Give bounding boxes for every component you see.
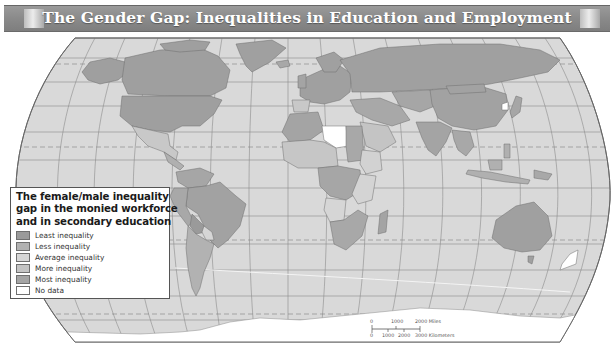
legend-label: More inequality (35, 264, 92, 273)
legend-label: Average inequality (35, 253, 104, 262)
scale-km-1000: 1000 (382, 333, 394, 338)
legend-item-most: Most inequality (16, 274, 164, 285)
legend-label: Least inequality (35, 231, 94, 240)
scale-km-0: 0 (370, 333, 373, 338)
legend-swatch (16, 253, 30, 262)
legend-swatch (16, 264, 30, 273)
scale-km-2000: 2000 (398, 333, 410, 338)
land-philippines (504, 144, 510, 158)
scale-km-3000: 3000 Kilometers (415, 333, 454, 338)
legend-swatch (16, 286, 30, 295)
legend-title-line: The female/male inequality (16, 191, 164, 203)
scale-miles-0: 0 (370, 319, 373, 324)
legend-item-more: More inequality (16, 263, 164, 274)
legend: The female/male inequality gap in the mo… (10, 187, 170, 299)
land-uk (298, 74, 306, 88)
legend-item-average: Average inequality (16, 252, 164, 263)
legend-label: Most inequality (35, 275, 92, 284)
legend-label: No data (35, 286, 64, 295)
scale-miles-2000: 2000 Miles (415, 319, 441, 324)
land-iberia (292, 100, 310, 112)
legend-swatch (16, 242, 30, 251)
scale-miles-1000: 1000 (391, 319, 403, 324)
legend-title: The female/male inequality gap in the mo… (16, 191, 164, 228)
land-canada (122, 48, 230, 96)
land-mongolia (446, 84, 486, 94)
legend-item-less: Less inequality (16, 241, 164, 252)
legend-title-line: and in secondary education (16, 216, 164, 228)
scale-bar: 0 1000 2000 Miles 0 1000 2000 3000 Kilom… (368, 318, 478, 340)
legend-item-no-data: No data (16, 285, 164, 296)
legend-swatch (16, 231, 30, 240)
legend-swatch (16, 275, 30, 284)
legend-title-line: gap in the monied workforce (16, 203, 164, 215)
land-borneo (488, 160, 502, 170)
legend-label: Less inequality (35, 242, 90, 251)
legend-item-least: Least inequality (16, 230, 164, 241)
